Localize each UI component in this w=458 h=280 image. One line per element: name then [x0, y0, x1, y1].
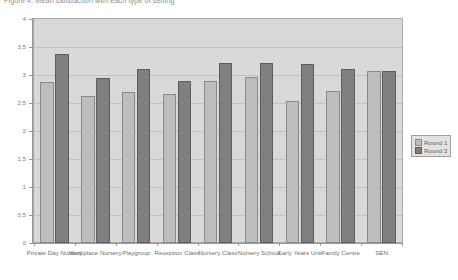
bar[interactable]	[137, 69, 151, 243]
bar[interactable]	[55, 54, 69, 243]
x-tick-mark	[238, 243, 239, 246]
x-tick-mark	[157, 243, 158, 246]
bar[interactable]	[367, 71, 381, 243]
chart-title: Figure 4: Mean satisfaction with each ty…	[4, 0, 175, 5]
legend-item-label: Round 2	[424, 147, 447, 154]
y-tick-label: 0.5	[2, 211, 26, 218]
y-tick-mark	[29, 75, 32, 76]
bar[interactable]	[178, 81, 192, 243]
x-tick-mark	[198, 243, 199, 246]
y-axis-line	[32, 18, 33, 244]
y-tick-mark	[29, 131, 32, 132]
bar[interactable]	[219, 63, 233, 243]
bars-layer	[34, 19, 402, 243]
bar[interactable]	[341, 69, 355, 243]
figure-container: Figure 4: Mean satisfaction with each ty…	[0, 0, 458, 280]
bar-group	[116, 19, 157, 243]
bar-group	[34, 19, 75, 243]
bar-group	[279, 19, 320, 243]
bar-group	[157, 19, 198, 243]
legend-item[interactable]: Round 1	[415, 138, 447, 146]
bar[interactable]	[204, 81, 218, 243]
y-tick-label: 1.5	[2, 155, 26, 162]
x-tick-mark	[75, 243, 76, 246]
y-tick-label: 3.5	[2, 43, 26, 50]
bar[interactable]	[81, 96, 95, 243]
legend-item[interactable]: Round 2	[415, 146, 447, 154]
x-tick-mark	[320, 243, 321, 246]
bar[interactable]	[286, 101, 300, 243]
x-tick-label: SEN	[354, 249, 410, 256]
bar[interactable]	[163, 94, 177, 243]
legend-item-label: Round 1	[424, 139, 447, 146]
bar-group	[361, 19, 402, 243]
x-tick-mark	[279, 243, 280, 246]
bar[interactable]	[382, 71, 396, 243]
bar-group	[238, 19, 279, 243]
chart-legend[interactable]: Round 1Round 2	[411, 135, 451, 157]
y-tick-label: 1	[2, 183, 26, 190]
bar[interactable]	[122, 92, 136, 243]
y-tick-mark	[29, 103, 32, 104]
bar[interactable]	[301, 64, 315, 243]
x-tick-mark	[116, 243, 117, 246]
bar-group	[320, 19, 361, 243]
bar-group	[75, 19, 116, 243]
x-tick-mark	[34, 243, 35, 246]
x-tick-mark	[402, 243, 403, 246]
y-tick-label: 0	[2, 239, 26, 246]
y-tick-mark	[29, 215, 32, 216]
y-tick-label: 3	[2, 71, 26, 78]
bar[interactable]	[245, 77, 259, 243]
bar[interactable]	[326, 91, 340, 243]
y-tick-mark	[29, 159, 32, 160]
bar[interactable]	[96, 78, 110, 243]
bar-group	[198, 19, 239, 243]
x-axis-line	[32, 243, 403, 244]
bar[interactable]	[260, 63, 274, 243]
legend-swatch-icon	[415, 147, 422, 154]
y-tick-label: 2.5	[2, 99, 26, 106]
y-tick-mark	[29, 19, 32, 20]
y-tick-mark	[29, 187, 32, 188]
x-tick-mark	[361, 243, 362, 246]
legend-swatch-icon	[415, 139, 422, 146]
y-tick-mark	[29, 47, 32, 48]
y-tick-label: 4	[2, 15, 26, 22]
y-tick-label: 2	[2, 127, 26, 134]
bar[interactable]	[40, 82, 54, 243]
